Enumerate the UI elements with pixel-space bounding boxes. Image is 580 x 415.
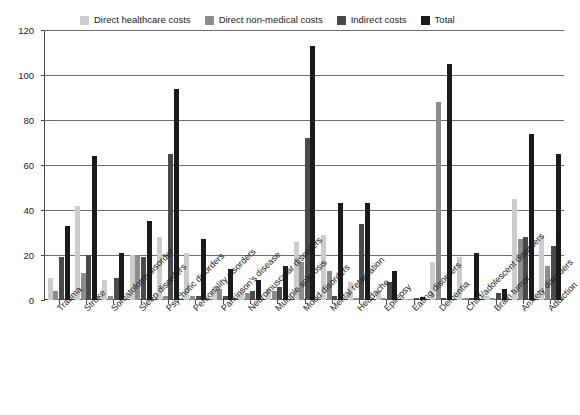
- x-tick-mark: [414, 300, 415, 304]
- legend-entry: Indirect costs: [337, 15, 407, 25]
- bar-group: [75, 30, 97, 300]
- legend-entry: Direct healthcare costs: [80, 15, 191, 25]
- y-tick-label: 120: [4, 25, 34, 36]
- bar: [53, 291, 58, 300]
- bar: [228, 269, 233, 301]
- bar: [502, 289, 507, 300]
- bar: [48, 278, 53, 301]
- bar: [556, 154, 561, 300]
- bar: [496, 293, 501, 300]
- bar: [523, 237, 528, 300]
- bar-group: [512, 30, 534, 300]
- bar: [436, 102, 441, 300]
- bar: [108, 296, 113, 301]
- bar: [529, 134, 534, 301]
- x-tick-mark: [86, 300, 87, 304]
- bar: [65, 226, 70, 300]
- bar: [190, 296, 195, 301]
- legend-label: Total: [435, 15, 455, 25]
- y-tick-label: 40: [4, 205, 34, 216]
- bar: [539, 237, 544, 300]
- bar: [387, 282, 392, 300]
- y-tick-label: 60: [4, 160, 34, 171]
- bar: [332, 296, 337, 301]
- y-tick-label: 20: [4, 250, 34, 261]
- bar: [359, 224, 364, 301]
- bar-group: [294, 30, 316, 300]
- legend-label: Direct healthcare costs: [94, 15, 191, 25]
- y-tick-label: 80: [4, 115, 34, 126]
- bar: [430, 262, 435, 300]
- bar: [321, 235, 326, 300]
- bar: [212, 287, 217, 301]
- x-tick-mark: [332, 300, 333, 304]
- bar: [163, 296, 168, 301]
- bar: [168, 154, 173, 300]
- bar: [420, 297, 425, 300]
- bar-group: [430, 30, 452, 300]
- bar: [196, 296, 201, 301]
- bar: [272, 291, 277, 300]
- bar: [403, 299, 408, 300]
- bar: [365, 203, 370, 300]
- bar: [184, 253, 189, 300]
- bar: [376, 291, 381, 300]
- bar: [130, 255, 135, 300]
- bar: [348, 282, 353, 300]
- bar-group: [348, 30, 370, 300]
- bar: [201, 239, 206, 300]
- bar: [114, 278, 119, 301]
- bar: [59, 257, 64, 300]
- x-tick-mark: [195, 300, 196, 304]
- bar: [463, 298, 468, 300]
- bar: [256, 280, 261, 300]
- bar: [147, 221, 152, 300]
- x-tick-mark: [59, 300, 60, 304]
- bar: [354, 298, 359, 300]
- bar-group: [485, 30, 507, 300]
- x-tick-mark: [305, 300, 306, 304]
- chart-legend: Direct healthcare costsDirect non-medica…: [80, 13, 469, 27]
- bar: [223, 296, 228, 301]
- bar: [217, 289, 222, 300]
- bar: [81, 273, 86, 300]
- y-tick-mark: [41, 120, 45, 121]
- x-tick-mark: [168, 300, 169, 304]
- bar: [277, 287, 282, 301]
- y-tick-mark: [41, 30, 45, 31]
- bar: [239, 291, 244, 300]
- bar: [141, 257, 146, 300]
- bar: [457, 257, 462, 300]
- bar: [119, 253, 124, 300]
- bar-group: [48, 30, 70, 300]
- x-tick-mark: [523, 300, 524, 304]
- x-tick-mark: [441, 300, 442, 304]
- bar: [294, 242, 299, 301]
- bar-group: [457, 30, 479, 300]
- bar: [266, 289, 271, 300]
- legend-swatch-icon: [337, 16, 346, 25]
- y-tick-mark: [41, 165, 45, 166]
- bar: [299, 262, 304, 300]
- x-tick-mark: [113, 300, 114, 304]
- legend-label: Direct non-medical costs: [219, 15, 323, 25]
- y-tick-label: 0: [4, 295, 34, 306]
- y-tick-mark: [41, 300, 45, 301]
- bar: [518, 239, 523, 300]
- bar: [250, 291, 255, 300]
- bar: [75, 206, 80, 301]
- bar: [414, 298, 419, 300]
- bar: [381, 298, 386, 300]
- legend-entry: Total: [421, 15, 455, 25]
- bar: [157, 237, 162, 300]
- bar: [545, 266, 550, 300]
- bar: [551, 246, 556, 300]
- x-tick-mark: [277, 300, 278, 304]
- bar-group: [239, 30, 261, 300]
- bar: [327, 271, 332, 300]
- bar: [174, 89, 179, 301]
- legend-swatch-icon: [205, 16, 214, 25]
- legend-label: Indirect costs: [351, 15, 407, 25]
- y-tick-mark: [41, 255, 45, 256]
